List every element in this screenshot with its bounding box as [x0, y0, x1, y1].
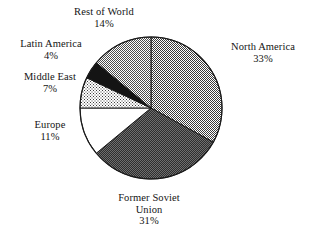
pie-slice-group: [80, 37, 222, 179]
slice-label-rest-of-world: Rest of World 14%: [48, 6, 160, 29]
slice-label-name: North America: [216, 41, 310, 53]
slice-label-former-soviet-union: Former Soviet Union 31%: [86, 192, 212, 227]
slice-label-latin-america: Latin America 4%: [2, 38, 100, 61]
slice-label-europe: Europe 11%: [14, 119, 86, 142]
slice-label-name: Latin America: [2, 38, 100, 50]
slice-label-name: Middle East: [4, 71, 96, 83]
slice-label-percent: 14%: [48, 18, 160, 30]
slice-label-name: Former Soviet: [86, 192, 212, 204]
slice-label-percent: 4%: [2, 50, 100, 62]
slice-label-name: Europe: [14, 119, 86, 131]
slice-label-percent: 31%: [86, 215, 212, 227]
slice-label-name: Rest of World: [48, 6, 160, 18]
slice-label-north-america: North America 33%: [216, 41, 310, 64]
slice-label-percent: 7%: [4, 83, 96, 95]
slice-label-name-line2: Union: [86, 204, 212, 216]
slice-label-percent: 11%: [14, 131, 86, 143]
slice-label-percent: 33%: [216, 53, 310, 65]
slice-label-middle-east: Middle East 7%: [4, 71, 96, 94]
pie-chart: Rest of World 14% North America 33% Lati…: [0, 0, 312, 243]
